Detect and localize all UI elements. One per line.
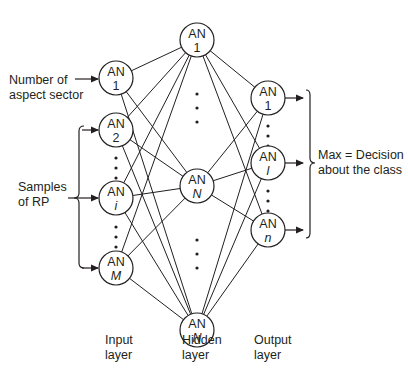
decision-label: Max = Decision about the class bbox=[318, 148, 404, 178]
output-node-3: ANn bbox=[251, 213, 285, 247]
hidden-node-1: AN1 bbox=[180, 23, 214, 57]
connection-line bbox=[124, 55, 189, 183]
input-node-3: ANi bbox=[99, 181, 133, 215]
samples-label-line1: Samples bbox=[18, 180, 67, 195]
node-title: AN bbox=[107, 255, 124, 269]
aspect-sector-label-line1: Number of bbox=[9, 73, 83, 88]
node-index: N bbox=[192, 187, 202, 201]
output-layer-label-line1: Output bbox=[254, 333, 292, 348]
output-layer-label: Output layer bbox=[254, 333, 292, 363]
input-layer-label: Input layer bbox=[105, 333, 133, 363]
ellipsis-dot bbox=[195, 238, 198, 241]
connection-line bbox=[125, 212, 188, 315]
aspect-sector-label-line2: aspect sector bbox=[9, 88, 83, 103]
connection-line bbox=[210, 51, 255, 87]
node-title: AN bbox=[259, 217, 276, 231]
ellipsis-dot bbox=[195, 120, 198, 123]
node-title: AN bbox=[188, 173, 205, 187]
connection-line bbox=[207, 244, 258, 316]
output-brace bbox=[306, 90, 315, 238]
input-layer-label-line2: layer bbox=[105, 348, 133, 363]
connection-line bbox=[129, 278, 183, 319]
connection-line bbox=[128, 198, 185, 256]
connection-line bbox=[122, 146, 190, 314]
node-index: 2 bbox=[113, 131, 120, 145]
decision-label-line2: about the class bbox=[318, 163, 404, 178]
node-title: AN bbox=[107, 65, 124, 79]
samples-label: Samples of RP bbox=[18, 180, 67, 210]
ellipsis-dot bbox=[114, 245, 117, 248]
output-node-2: ANl bbox=[251, 146, 285, 180]
input-node-1: AN1 bbox=[99, 61, 133, 95]
ellipsis-dot bbox=[114, 235, 117, 238]
ellipsis-dot bbox=[195, 252, 198, 255]
node-index: 1 bbox=[265, 99, 272, 113]
node-title: AN bbox=[107, 117, 124, 131]
hidden-layer-label: Hidden layer bbox=[182, 333, 222, 363]
connection-line bbox=[202, 114, 263, 313]
connection-line bbox=[211, 195, 253, 221]
node-index: 1 bbox=[194, 41, 201, 55]
decision-label-line1: Max = Decision bbox=[318, 148, 404, 163]
node-title: AN bbox=[259, 85, 276, 99]
ellipsis-dot bbox=[266, 124, 269, 127]
ellipsis-dot bbox=[266, 189, 269, 192]
input-node-2: AN2 bbox=[99, 113, 133, 147]
output-layer-label-line2: layer bbox=[254, 348, 292, 363]
input-layer-label-line1: Input bbox=[105, 333, 133, 348]
ellipsis-dot bbox=[114, 156, 117, 159]
hidden-layer-label-line1: Hidden bbox=[182, 333, 222, 348]
node-index: n bbox=[265, 231, 272, 245]
nodes: AN1AN2ANiANMAN1ANNANNAN1ANlANn bbox=[99, 23, 285, 347]
samples-brace bbox=[74, 126, 84, 268]
ellipsis-dot bbox=[266, 209, 269, 212]
ellipsis-dot bbox=[114, 176, 117, 179]
connection-line bbox=[130, 140, 183, 177]
node-index: 1 bbox=[113, 79, 120, 93]
ellipsis-dot bbox=[114, 225, 117, 228]
ellipsis-dot bbox=[195, 266, 198, 269]
aspect-sector-label: Number of aspect sector bbox=[9, 73, 83, 103]
node-index: M bbox=[111, 269, 122, 283]
node-title: AN bbox=[107, 185, 124, 199]
ellipsis-dot bbox=[114, 166, 117, 169]
connection-line bbox=[204, 179, 262, 315]
hidden-node-2: ANN bbox=[180, 169, 214, 203]
connection-line bbox=[127, 53, 185, 118]
output-node-1: AN1 bbox=[251, 81, 285, 115]
neural-network-diagram: AN1AN2ANiANMAN1ANNANNAN1ANlANn Number of… bbox=[0, 0, 408, 377]
connection-line bbox=[131, 47, 181, 71]
ellipsis-dot bbox=[195, 92, 198, 95]
connection-line bbox=[208, 111, 258, 173]
samples-label-line2: of RP bbox=[18, 195, 67, 210]
ellipsis-dot bbox=[266, 134, 269, 137]
ellipsis-dot bbox=[195, 106, 198, 109]
ellipsis-dot bbox=[266, 199, 269, 202]
node-title: AN bbox=[188, 317, 205, 331]
input-node-4: ANM bbox=[99, 251, 133, 285]
hidden-layer-label-line2: layer bbox=[182, 348, 222, 363]
node-title: AN bbox=[259, 150, 276, 164]
node-title: AN bbox=[188, 27, 205, 41]
